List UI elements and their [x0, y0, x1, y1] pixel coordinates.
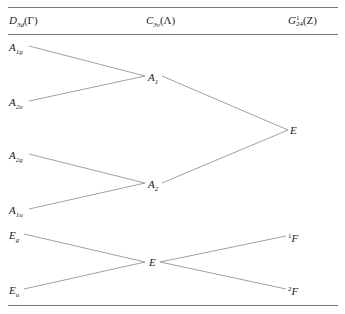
correlation-lines: [0, 0, 345, 314]
state-2f: 2F: [288, 283, 298, 297]
state-eu-main: E: [9, 284, 16, 296]
state-a1: A1: [148, 71, 158, 88]
state-a2: A2: [148, 178, 158, 195]
line-eg-e: [24, 234, 145, 262]
state-eg: Eg: [9, 229, 19, 246]
line-eu-e: [24, 262, 145, 289]
state-a2g: A2g: [9, 149, 23, 166]
line-e-2f: [160, 262, 286, 289]
state-eg-sub: g: [16, 236, 20, 244]
line-a2u-a1: [29, 76, 145, 101]
state-a2g-main: A: [9, 149, 16, 161]
state-a1g: A1g: [9, 41, 23, 58]
state-a1g-sub: 1g: [16, 48, 23, 56]
state-eu-sub: u: [16, 291, 20, 299]
state-a1u-sub: 1u: [16, 211, 23, 219]
state-a1-sub: 1: [155, 78, 159, 86]
state-eg-main: E: [9, 229, 16, 241]
state-a2-main: A: [148, 178, 155, 190]
line-a2-e: [162, 130, 288, 183]
state-e-mid-main: E: [149, 256, 156, 268]
state-a2u: A2u: [9, 96, 23, 113]
state-a1u-main: A: [9, 204, 16, 216]
state-a2u-main: A: [9, 96, 16, 108]
state-a2u-sub: 2u: [16, 103, 23, 111]
state-a1g-main: A: [9, 41, 16, 53]
line-a1u-a2: [29, 183, 145, 209]
state-e-right: E: [290, 124, 297, 136]
bottom-rule: [8, 305, 338, 306]
state-e-mid: E: [149, 256, 156, 268]
state-a2-sub: 2: [155, 185, 159, 193]
line-a2g-a2: [29, 154, 145, 183]
state-2f-main: F: [292, 285, 299, 297]
state-a1u: A1u: [9, 204, 23, 221]
state-a1-main: A: [148, 71, 155, 83]
state-a2g-sub: 2g: [16, 156, 23, 164]
state-1f-main: F: [292, 232, 299, 244]
line-a1g-a1: [29, 46, 145, 76]
line-a1-e: [162, 76, 288, 130]
state-1f: 1F: [288, 230, 298, 244]
line-e-1f: [160, 236, 286, 262]
state-e-right-main: E: [290, 124, 297, 136]
state-eu: Eu: [9, 284, 19, 301]
